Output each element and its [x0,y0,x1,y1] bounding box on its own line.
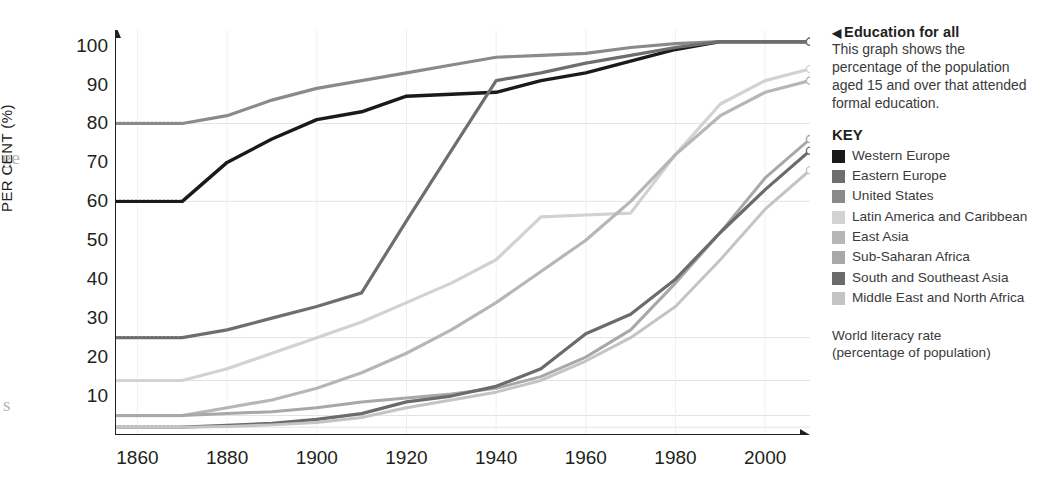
y-tick-70: 70 [62,151,108,173]
key-item-7[interactable]: Middle East and North Africa [832,290,1038,306]
x-tick-1920: 1920 [385,447,427,469]
key-swatch-icon [832,211,845,224]
key-item-label: Western Europe [852,148,950,164]
x-tick-2000: 2000 [744,447,786,469]
key-swatch-icon [832,150,845,163]
key-swatch-icon [832,170,845,183]
side-panel: ◀Education for all This graph shows the … [832,24,1038,362]
y-tick-80: 80 [62,112,108,134]
key-swatch-icon [832,251,845,264]
chart-svg [115,30,810,435]
caption-title-text: Education for all [844,24,959,40]
x-tick-1880: 1880 [206,447,248,469]
key-item-label: East Asia [852,229,909,245]
key-item-2[interactable]: United States [832,188,1038,204]
key-item-label: Latin America and Caribbean [852,209,1027,225]
key-item-3[interactable]: Latin America and Caribbean [832,209,1038,225]
x-tick-1980: 1980 [654,447,696,469]
caption-body: This graph shows the percentage of the p… [832,41,1038,113]
footer-line-1: World literacy rate [832,328,1038,345]
key-item-5[interactable]: Sub-Saharan Africa [832,249,1038,265]
y-tick-100: 100 [62,35,108,57]
key-swatch-icon [832,190,845,203]
key-item-label: Sub-Saharan Africa [852,249,970,265]
key-list: Western EuropeEastern EuropeUnited State… [832,148,1038,307]
key-item-4[interactable]: East Asia [832,229,1038,245]
key-swatch-icon [832,272,845,285]
y-tick-50: 50 [62,229,108,251]
y-tick-30: 30 [62,307,108,329]
left-triangle-icon: ◀ [832,26,841,40]
x-axis-tick-labels: 18601880190019201940196019802000 [0,447,820,477]
y-tick-60: 60 [62,190,108,212]
plot-area [115,30,810,435]
key-item-0[interactable]: Western Europe [832,148,1038,164]
key-item-label: Eastern Europe [852,168,946,184]
key-swatch-icon [832,292,845,305]
key-item-1[interactable]: Eastern Europe [832,168,1038,184]
caption-title: ◀Education for all [832,24,1038,40]
y-tick-10: 10 [62,385,108,407]
y-tick-40: 40 [62,268,108,290]
line-chart: PER CENT (%) 102030405060708090100 18601… [0,0,820,504]
key-item-6[interactable]: South and Southeast Asia [832,270,1038,286]
footer-note: World literacy rate (percentage of popul… [832,328,1038,362]
x-tick-1960: 1960 [565,447,607,469]
x-tick-1860: 1860 [116,447,158,469]
key-item-label: United States [852,188,934,204]
key-item-label: South and Southeast Asia [852,270,1008,286]
key-item-label: Middle East and North Africa [852,290,1024,306]
y-tick-20: 20 [62,346,108,368]
x-tick-1940: 1940 [475,447,517,469]
key-heading: KEY [832,126,1038,143]
y-tick-90: 90 [62,74,108,96]
key-swatch-icon [832,231,845,244]
y-axis-title: PER CENT (%) [0,104,15,212]
x-tick-1900: 1900 [296,447,338,469]
footer-line-2: (percentage of population) [832,345,1038,362]
y-axis-tick-labels: 102030405060708090100 [58,0,108,504]
